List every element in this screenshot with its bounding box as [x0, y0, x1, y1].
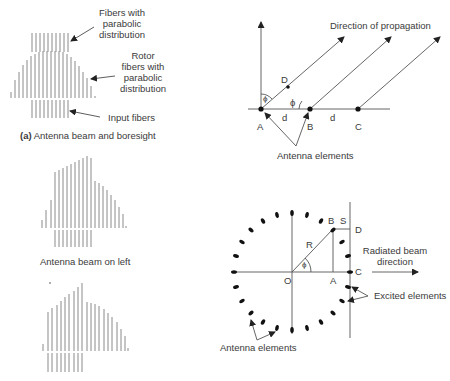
label-excited-elements: Excited elements	[374, 290, 446, 301]
caption-beam-left: Antenna beam on left	[40, 256, 130, 267]
label-spacing-ab: d	[282, 112, 287, 123]
label-phi-a: ϕ	[263, 93, 267, 104]
label-fibers-parabolic: Fibers with parabolic distribution	[94, 7, 150, 40]
input-fibers-right	[48, 353, 82, 372]
label-point-b: B	[307, 121, 313, 132]
label-circle-b: B	[328, 215, 334, 226]
fiber-bundle-boresight	[11, 33, 95, 118]
caption-panel-a: (a) Antenna beam and boresight	[20, 130, 156, 141]
ray-from-c	[358, 37, 440, 109]
label-phi-b: ϕ	[290, 97, 295, 108]
radius-ob	[292, 229, 333, 272]
label-circle-c: C	[355, 266, 362, 277]
rotor-fibers	[11, 51, 95, 98]
label-spacing-bc: d	[330, 112, 335, 123]
label-radiated-beam-direction: Radiated beam direction	[360, 245, 430, 267]
rotor-fibers-right	[43, 283, 128, 351]
pointer-to-a	[265, 113, 296, 146]
ray-from-a	[261, 37, 344, 109]
label-circle-s: S	[340, 215, 346, 226]
top-fibers	[32, 33, 68, 52]
pointer-excited-2	[348, 296, 368, 301]
input-fibers-left	[55, 230, 91, 247]
label-point-d: D	[281, 74, 288, 85]
angle-arc-b	[299, 101, 302, 109]
label-point-c: C	[355, 121, 362, 132]
ray-from-b	[310, 37, 391, 109]
point-d	[286, 85, 290, 89]
label-circle-r: R	[306, 239, 313, 250]
label-rotor-fibers: Rotor fibers with parabolic distribution	[117, 50, 169, 94]
diagram-canvas	[0, 0, 450, 381]
pointer-excited-1	[352, 287, 368, 296]
fiber-bundle-beam-left	[42, 156, 126, 247]
rotor-fibers-left	[42, 156, 126, 228]
label-circle-a: A	[330, 275, 336, 286]
label-point-a: A	[257, 121, 263, 132]
label-circle-d: D	[355, 224, 362, 235]
pointer-elements-1	[251, 320, 257, 340]
point-c	[355, 106, 360, 111]
label-circle-phi: ϕ	[302, 259, 306, 270]
fiber-bundle-beam-right	[43, 282, 128, 372]
panel-a-pointers	[70, 27, 115, 117]
label-circle-o: O	[284, 275, 291, 286]
circular-array-diagram	[233, 202, 418, 340]
label-direction-of-propagation: Direction of propagation	[330, 20, 431, 31]
input-fibers	[32, 100, 68, 118]
pointer-elements-2	[257, 332, 275, 340]
label-antenna-elements-circular: Antenna elements	[220, 342, 297, 353]
point-a	[258, 106, 263, 111]
label-antenna-elements-linear: Antenna elements	[277, 150, 354, 161]
point-b	[307, 106, 312, 111]
label-input-fibers: Input fibers	[108, 112, 155, 123]
linear-array-diagram	[248, 22, 440, 146]
